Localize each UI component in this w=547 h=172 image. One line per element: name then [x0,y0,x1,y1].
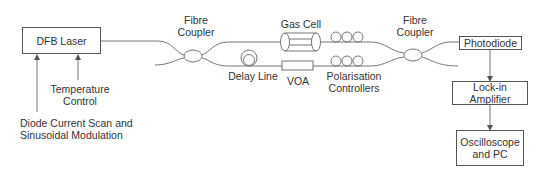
diode-label-line1: Diode Current Scan and [20,117,133,129]
temperature-label-line2: Control [51,95,110,107]
fiber-coupler1-unused-input [155,58,184,65]
fiber-lower-after-voa [313,57,404,66]
coupler1-icon [184,50,202,62]
fiber-coupler2-to-photodiode [422,42,459,53]
temperature-control-label: Temperature Control [51,83,110,107]
fiber-upper-arm [202,42,281,55]
diode-current-label: Diode Current Scan and Sinusoidal Modula… [20,117,133,141]
voa-icon [282,61,313,70]
photodiode-label: Photodiode [464,37,517,49]
delay-line-inner-icon [244,55,255,66]
polarisation-controller-upper-icon [331,32,363,42]
lockin-amplifier-box: Lock-in Amplifier [452,81,528,105]
polarisation-controllers-label: Polarisation Controllers [327,70,382,94]
fiber-laser-to-coupler1 [101,41,184,55]
delay-line-label: Delay Line [228,70,278,82]
fiber-upper-after-gascell [320,42,404,53]
dfb-laser-label: DFB Laser [36,35,86,47]
fiber-coupler2-unused-output [422,57,458,66]
coupler2-label-line2: Coupler [397,26,434,38]
polarisation-label-line1: Polarisation [327,70,382,82]
lockin-amplifier-label: Lock-in Amplifier [453,81,527,105]
coupler2-label-line1: Fibre [397,14,434,26]
coupler1-label-line2: Coupler [178,26,215,38]
coupler2-icon [404,49,422,61]
gas-cell-icon [281,33,321,51]
oscilloscope-label-line1: Oscilloscope [460,136,520,148]
temperature-label-line1: Temperature [51,83,110,95]
coupler1-label: Fibre Coupler [178,14,215,38]
diode-label-line2: Sinusoidal Modulation [20,129,133,141]
coupler2-label: Fibre Coupler [397,14,434,38]
polarisation-label-line2: Controllers [327,82,382,94]
photodiode-box: Photodiode [459,36,522,50]
oscilloscope-box: Oscilloscope and PC [456,130,524,166]
polarisation-controller-lower-icon [331,56,363,66]
dfb-laser-box: DFB Laser [22,27,101,54]
oscilloscope-label-line2: and PC [472,148,507,160]
voa-label: VOA [287,75,309,87]
gas-cell-label: Gas Cell [281,18,321,30]
coupler1-label-line1: Fibre [178,14,215,26]
